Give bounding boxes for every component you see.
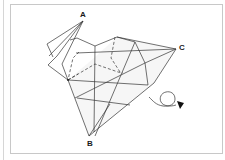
reference-point	[67, 79, 69, 81]
turn-over-arrow-icon	[149, 92, 184, 109]
label-a: A	[80, 10, 86, 19]
origami-diagram: A C B	[0, 0, 225, 160]
label-b: B	[87, 139, 93, 148]
model-body-fill	[68, 37, 176, 136]
label-c: C	[179, 43, 185, 52]
